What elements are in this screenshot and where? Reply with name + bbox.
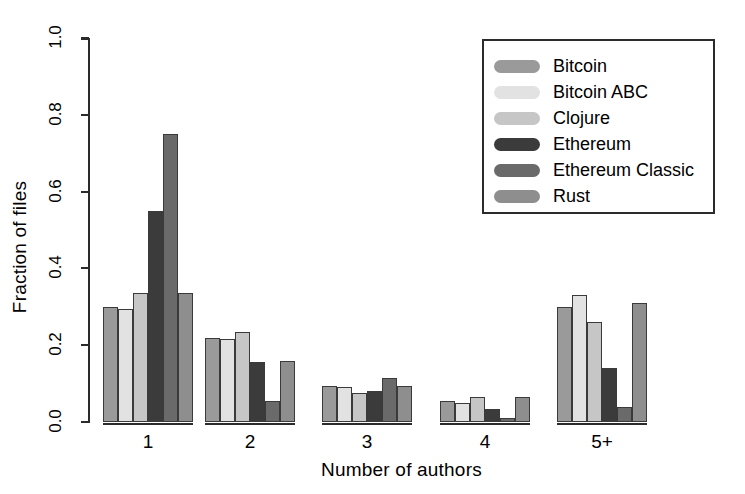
bar	[163, 134, 178, 422]
bar	[557, 307, 572, 422]
x-axis-segment	[103, 423, 193, 425]
x-tick-label: 3	[322, 431, 412, 453]
bar	[352, 393, 367, 422]
y-tick-label: 0.8	[46, 94, 66, 134]
bar	[587, 322, 602, 422]
x-tick-label: 5+	[557, 431, 647, 453]
x-tick-label: 2	[205, 431, 295, 453]
bar	[337, 387, 352, 422]
legend-item: Bitcoin	[494, 53, 607, 79]
legend-item: Ethereum	[494, 131, 631, 157]
legend-item: Ethereum Classic	[494, 157, 694, 183]
legend-label: Clojure	[553, 108, 610, 129]
legend-swatch-icon	[494, 164, 540, 177]
bar	[572, 295, 587, 422]
legend-label: Rust	[553, 186, 590, 207]
legend-label: Ethereum	[553, 134, 631, 155]
y-tick-label: 0.2	[46, 324, 66, 364]
y-tick-mark	[81, 344, 89, 346]
bar	[515, 397, 530, 422]
bar	[235, 332, 250, 422]
chart-legend: BitcoinBitcoin ABCClojureEthereumEthereu…	[482, 39, 715, 214]
y-tick-label: 0.0	[46, 401, 66, 441]
bar	[367, 391, 382, 422]
legend-item: Bitcoin ABC	[494, 79, 648, 105]
bar	[322, 386, 337, 422]
y-tick-label: 0.4	[46, 247, 66, 287]
bar	[220, 339, 235, 422]
y-axis-line	[88, 38, 90, 422]
bar	[500, 418, 515, 422]
bar	[455, 403, 470, 422]
bar	[280, 361, 295, 422]
x-axis-segment	[557, 423, 647, 425]
legend-swatch-icon	[494, 86, 540, 99]
bar	[602, 368, 617, 422]
bar	[250, 362, 265, 422]
y-tick-mark	[81, 114, 89, 116]
bar	[470, 397, 485, 422]
bar	[103, 307, 118, 422]
y-axis-cap	[81, 38, 90, 40]
y-tick-mark	[81, 191, 89, 193]
bar	[205, 338, 220, 422]
y-tick-mark	[81, 267, 89, 269]
legend-item: Rust	[494, 183, 590, 209]
x-axis-title: Number of authors	[83, 459, 720, 481]
legend-swatch-icon	[494, 138, 540, 151]
x-tick-label: 1	[103, 431, 193, 453]
legend-label: Bitcoin ABC	[553, 82, 648, 103]
x-axis-segment	[440, 423, 530, 425]
legend-swatch-icon	[494, 60, 540, 73]
bar-chart-figure: Fraction of files 0.00.20.40.60.81.0 123…	[0, 0, 745, 494]
bar	[265, 401, 280, 422]
bar	[485, 409, 500, 422]
legend-swatch-icon	[494, 190, 540, 203]
bar	[133, 293, 148, 422]
x-tick-label: 4	[440, 431, 530, 453]
bar	[178, 293, 193, 422]
legend-swatch-icon	[494, 112, 540, 125]
bar	[440, 401, 455, 422]
y-tick-label: 0.6	[46, 171, 66, 211]
bar	[397, 386, 412, 422]
bar	[118, 309, 133, 422]
x-axis-segment	[205, 423, 295, 425]
bar	[148, 211, 163, 422]
legend-item: Clojure	[494, 105, 610, 131]
x-axis-segment	[322, 423, 412, 425]
legend-label: Ethereum Classic	[553, 160, 694, 181]
bar	[382, 378, 397, 422]
legend-label: Bitcoin	[553, 56, 607, 77]
bar	[617, 407, 632, 422]
y-axis-cap	[81, 421, 90, 423]
bar	[632, 303, 647, 422]
y-tick-label: 1.0	[46, 17, 66, 57]
